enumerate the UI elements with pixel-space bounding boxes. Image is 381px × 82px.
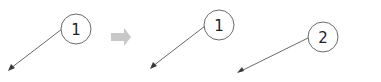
after-callout-2: 2: [237, 22, 338, 73]
before-callout-1: 1: [8, 14, 91, 71]
balloon-number: 2: [318, 29, 328, 47]
arrowhead-icon: [237, 67, 244, 73]
callout-diagram: 1 1 2: [0, 0, 381, 82]
leader-line: [153, 26, 205, 66]
arrowhead-icon: [8, 64, 15, 71]
right-arrow-icon: [111, 28, 131, 46]
balloon-number: 1: [71, 21, 81, 39]
leader-line: [11, 29, 62, 68]
balloon-number: 1: [214, 17, 224, 35]
leader-line: [241, 38, 308, 71]
after-callout-1: 1: [150, 10, 234, 69]
arrowhead-icon: [150, 62, 157, 69]
